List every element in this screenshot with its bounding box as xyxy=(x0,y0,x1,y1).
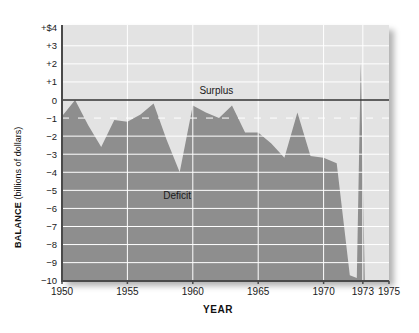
y-tick-label: 0 xyxy=(52,95,57,106)
y-tick-label: +1 xyxy=(46,76,57,87)
x-tick-label: 1965 xyxy=(247,286,270,297)
y-axis-title-units: (billions of dollars) xyxy=(13,127,23,202)
x-tick-label: 1960 xyxy=(182,286,205,297)
y-tick-label: −7 xyxy=(46,221,57,232)
y-tick-label: −1 xyxy=(46,113,57,124)
x-tick-label: 1973 xyxy=(352,286,375,297)
chart-canvas: 1950195519601965197019731975+$4+3+2+10−1… xyxy=(0,0,419,333)
y-tick-label: −4 xyxy=(46,167,57,178)
y-tick-label: −9 xyxy=(46,257,57,268)
y-tick-label: +2 xyxy=(46,58,57,69)
y-tick-label: −6 xyxy=(46,203,57,214)
balance-area-chart: 1950195519601965197019731975+$4+3+2+10−1… xyxy=(0,0,419,333)
x-tick-label: 1970 xyxy=(312,286,335,297)
x-tick-label: 1955 xyxy=(116,286,139,297)
x-axis-title: YEAR xyxy=(203,304,233,315)
x-tick-label: 1950 xyxy=(51,286,74,297)
y-tick-label: +$4 xyxy=(41,22,57,33)
y-tick-label: −8 xyxy=(46,239,57,250)
y-tick-label: −10 xyxy=(41,275,57,286)
y-tick-label: +3 xyxy=(46,40,57,51)
y-axis-title: BALANCE (billions of dollars) xyxy=(13,127,23,248)
y-tick-label: −5 xyxy=(46,185,57,196)
y-tick-label: −2 xyxy=(46,131,57,142)
surplus-label: Surplus xyxy=(199,85,233,96)
x-tick-label: 1975 xyxy=(378,286,401,297)
y-tick-label: −3 xyxy=(46,149,57,160)
deficit-label: Deficit xyxy=(163,190,191,201)
y-axis-title-bold: BALANCE xyxy=(13,202,23,248)
